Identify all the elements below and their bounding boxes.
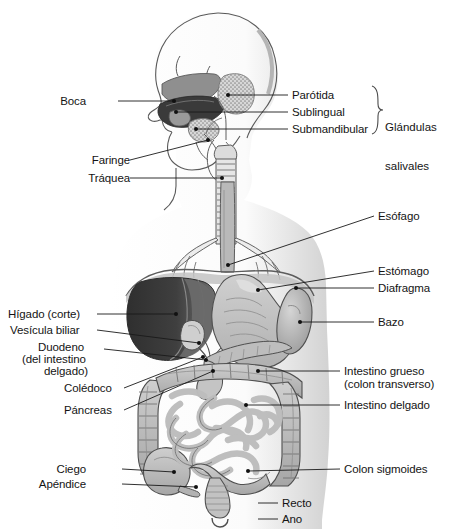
label-apendice: Apéndice bbox=[39, 478, 86, 491]
label-duodeno: Duodeno bbox=[38, 341, 84, 354]
label-intestino-delgado: Intestino delgado bbox=[344, 399, 430, 412]
salivary-glands-brace bbox=[372, 86, 383, 134]
label-estomago: Estómago bbox=[378, 265, 429, 278]
label-bazo: Bazo bbox=[378, 316, 404, 329]
label-sublingual: Sublingual bbox=[292, 106, 345, 119]
glandulas-salivales-line2: salivales bbox=[385, 160, 437, 173]
label-intestino-grueso-line2: (colon transverso) bbox=[344, 378, 434, 391]
label-coledoco: Colédoco bbox=[64, 382, 112, 395]
label-pancreas: Páncreas bbox=[64, 404, 112, 417]
label-faringe: Faringe bbox=[92, 154, 130, 167]
glandula-submandibular bbox=[188, 119, 219, 142]
label-glandulas-salivales: Glándulas salivales bbox=[385, 95, 437, 199]
digestive-system-figure: Boca Faringe Tráquea Hígado (corte) Vesí… bbox=[0, 0, 449, 529]
label-vesicula-biliar: Vesícula biliar bbox=[10, 324, 79, 337]
label-colon-sigmoides: Colon sigmoides bbox=[344, 463, 428, 476]
label-boca: Boca bbox=[60, 95, 86, 108]
label-parotida: Parótida bbox=[292, 89, 334, 102]
label-duodeno-line3: delgado) bbox=[44, 365, 88, 378]
label-intestino-grueso: Intestino grueso bbox=[344, 365, 424, 378]
label-ano: Ano bbox=[282, 513, 302, 526]
label-higado: Hígado (corte) bbox=[8, 308, 80, 321]
label-diafragma: Diafragma bbox=[378, 282, 430, 295]
esofago-organ bbox=[220, 182, 235, 272]
vesicula-organ bbox=[181, 320, 205, 350]
label-recto: Recto bbox=[282, 497, 312, 510]
label-ciego: Ciego bbox=[56, 463, 86, 476]
label-esofago: Esófago bbox=[378, 210, 420, 223]
label-traquea: Tráquea bbox=[88, 172, 130, 185]
label-duodeno-line2: (del intestino bbox=[22, 353, 86, 366]
label-submandibular: Submandibular bbox=[292, 123, 368, 136]
glandulas-salivales-line1: Glándulas bbox=[385, 121, 437, 134]
